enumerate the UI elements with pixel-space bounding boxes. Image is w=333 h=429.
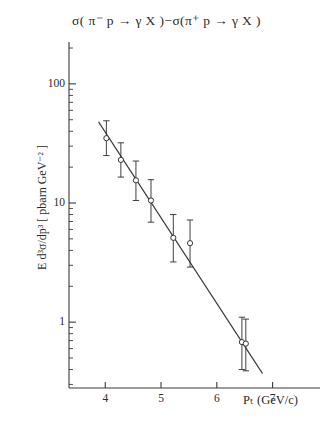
data-series (103, 121, 249, 371)
data-point (133, 161, 139, 200)
axes-layer (0, 0, 333, 429)
x-tick-label: 7 (261, 392, 285, 404)
axis-spines (69, 42, 320, 388)
data-marker (118, 157, 123, 162)
data-marker (171, 235, 176, 240)
data-point (148, 180, 154, 223)
x-tick-label: 4 (93, 392, 117, 404)
data-point (243, 319, 249, 371)
x-tick-label: 5 (149, 392, 173, 404)
data-marker (133, 178, 138, 183)
data-marker (104, 136, 109, 141)
data-point (170, 215, 176, 262)
y-tick-label: 100 (23, 77, 65, 89)
y-axis-ticks (69, 48, 76, 384)
data-marker (148, 198, 153, 203)
data-point (187, 220, 193, 267)
data-point (118, 143, 124, 177)
y-tick-label: 10 (23, 196, 65, 208)
figure-plot: σ( π⁻ p → γ X )−σ(π⁺ p → γ X ) E d³σ/dp³… (0, 0, 333, 429)
x-axis-ticks (105, 382, 272, 388)
data-point (103, 121, 109, 156)
x-tick-label: 6 (205, 392, 229, 404)
y-tick-label: 1 (23, 315, 65, 327)
data-marker (187, 241, 192, 246)
data-marker (243, 341, 248, 346)
